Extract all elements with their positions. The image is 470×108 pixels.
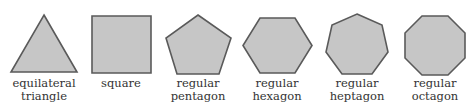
regular-pentagon-shape	[166, 15, 231, 74]
regular-hexagon-label: regular hexagon	[232, 77, 322, 103]
regular-heptagon-label: regular heptagon	[312, 77, 402, 103]
label-line-2: triangle	[0, 90, 89, 103]
regular-heptagon-shape	[326, 14, 388, 74]
equilateral-triangle-shape	[11, 15, 77, 72]
regular-pentagon-label: regular pentagon	[153, 77, 243, 103]
label-line-2: hexagon	[232, 90, 322, 103]
regular-octagon-shape	[405, 16, 465, 75]
label-line-2: heptagon	[312, 90, 402, 103]
square-shape	[92, 16, 151, 73]
label-line-2: pentagon	[153, 90, 243, 103]
regular-octagon-label: regular octagon	[390, 77, 470, 103]
label-line-2: octagon	[390, 90, 470, 103]
regular-hexagon-shape	[243, 18, 312, 73]
